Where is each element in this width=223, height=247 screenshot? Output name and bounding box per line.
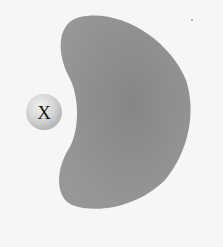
diagram-canvas: X [0, 0, 223, 247]
sphere-label: X [37, 103, 51, 122]
speck [191, 19, 193, 21]
sphere-x: X [26, 94, 62, 130]
